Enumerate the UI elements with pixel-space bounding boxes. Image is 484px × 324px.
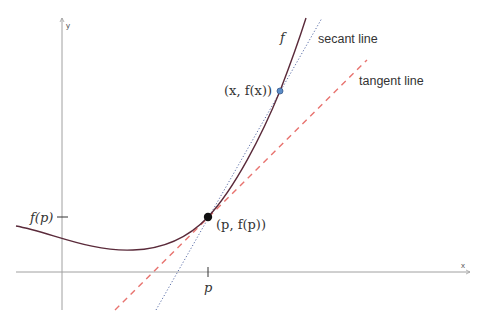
secant-point [277,88,283,94]
secant-point-label: (x, f(x)) [224,83,272,98]
secant-line-label: secant line [318,32,378,46]
derivative-diagram: x y p f(p) f secant line tangent line (x… [0,0,484,324]
y-axis-label: y [66,21,70,30]
tangent-point-label: (p, f(p)) [216,217,266,232]
p-tick-label: p [204,280,213,295]
axes: x y [16,18,470,310]
tangent-point [204,213,212,221]
secant-line [156,18,322,310]
x-axis-label: x [461,261,465,270]
curve-label: f [279,30,287,45]
tangent-line-label: tangent line [359,74,424,88]
diagram-svg: x y p f(p) f secant line tangent line (x… [0,0,484,324]
fp-tick-label: f(p) [29,210,53,225]
function-curve [16,18,306,250]
